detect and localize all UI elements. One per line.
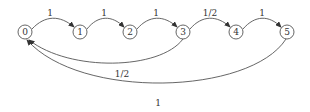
node-4: 4 xyxy=(229,25,243,39)
edge-5-0 xyxy=(27,39,286,83)
edge-2-3 xyxy=(137,18,177,29)
node-3: 3 xyxy=(176,25,190,39)
edge-4-5 xyxy=(243,18,281,29)
edge-0-1 xyxy=(32,18,74,29)
edge-label-4-5: 1 xyxy=(259,8,265,18)
node-label: 4 xyxy=(233,27,239,37)
state-diagram: 1 1 1 1/2 1 1/2 1 0 1 2 3 4 5 xyxy=(0,0,310,112)
edge-label-2-3: 1 xyxy=(153,8,159,18)
edge-3-4 xyxy=(190,18,230,29)
edge-label-3-4: 1/2 xyxy=(203,8,217,18)
node-5: 5 xyxy=(280,25,294,39)
node-0: 0 xyxy=(18,25,32,39)
edge-label-5-0: 1 xyxy=(155,98,161,108)
node-1: 1 xyxy=(73,25,87,39)
node-label: 2 xyxy=(127,27,133,37)
node-2: 2 xyxy=(123,25,137,39)
edge-label-0-1: 1 xyxy=(47,8,53,18)
node-label: 0 xyxy=(22,27,28,37)
node-label: 1 xyxy=(77,27,83,37)
edge-label-3-0: 1/2 xyxy=(115,69,129,79)
node-label: 3 xyxy=(180,27,186,37)
node-label: 5 xyxy=(284,27,290,37)
edge-1-2 xyxy=(87,18,124,29)
edge-label-1-2: 1 xyxy=(101,8,107,18)
